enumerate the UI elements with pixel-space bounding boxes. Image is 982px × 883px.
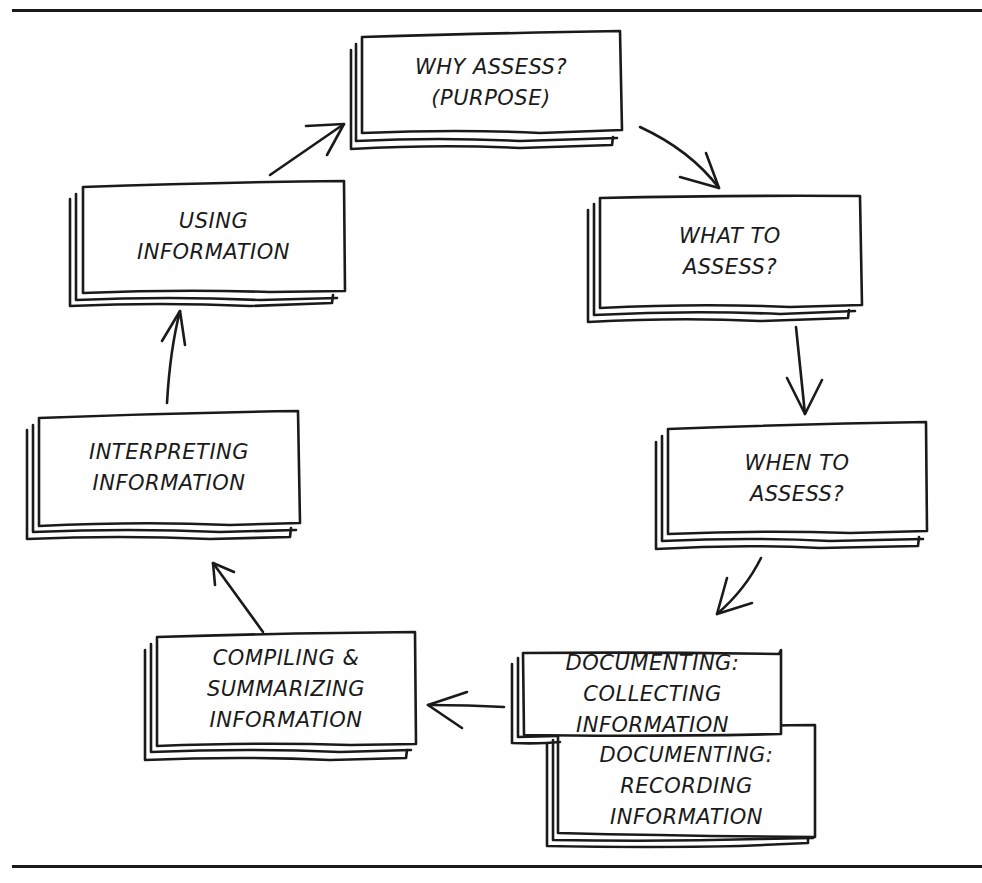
node-collecting-line-3: INFORMATION xyxy=(576,710,729,741)
arrow-why-to-what xyxy=(640,127,719,188)
node-using-line-1: USING xyxy=(179,206,248,237)
arrow-using-to-why xyxy=(270,124,344,175)
node-when-label: WHEN TO ASSESS? xyxy=(668,426,926,532)
node-compiling-label: COMPILING & SUMMARIZING INFORMATION xyxy=(157,634,415,744)
node-what-label: WHAT TO ASSESS? xyxy=(600,198,860,306)
node-why-line-2: (PURPOSE) xyxy=(431,83,550,114)
arrow-what-to-when xyxy=(787,327,822,414)
node-compiling-line-1: COMPILING & xyxy=(213,643,360,674)
node-using-line-2: INFORMATION xyxy=(137,237,290,268)
node-what-line-2: ASSESS? xyxy=(683,252,777,283)
node-recording-line-1: DOCUMENTING: xyxy=(600,740,774,771)
node-compiling-line-3: INFORMATION xyxy=(210,705,363,736)
node-what-line-1: WHAT TO xyxy=(679,221,781,252)
arrow-collecting-to-compiling xyxy=(428,692,504,728)
node-interpreting-label: INTERPRETING INFORMATION xyxy=(39,414,299,522)
node-collecting-label: DOCUMENTING: COLLECTING INFORMATION xyxy=(524,652,781,736)
node-compiling-line-2: SUMMARIZING xyxy=(207,674,365,705)
node-interpreting-line-1: INTERPRETING xyxy=(89,437,249,468)
node-why-label: WHY ASSESS? (PURPOSE) xyxy=(362,35,620,131)
node-using-label: USING INFORMATION xyxy=(83,183,344,291)
node-recording-line-3: INFORMATION xyxy=(610,802,763,833)
node-recording-label: DOCUMENTING: RECORDING INFORMATION xyxy=(558,738,815,834)
node-collecting-line-2: COLLECTING xyxy=(583,679,722,710)
arrow-compiling-to-interpreting xyxy=(213,563,263,632)
node-interpreting-line-2: INFORMATION xyxy=(93,468,246,499)
arrow-interpreting-to-using xyxy=(162,311,185,403)
node-collecting-line-1: DOCUMENTING: xyxy=(566,648,740,679)
node-when-line-2: ASSESS? xyxy=(750,479,844,510)
node-why-line-1: WHY ASSESS? xyxy=(415,52,567,83)
node-when-line-1: WHEN TO xyxy=(744,448,849,479)
arrow-when-to-collecting xyxy=(717,558,761,614)
node-recording-line-2: RECORDING xyxy=(620,771,753,802)
